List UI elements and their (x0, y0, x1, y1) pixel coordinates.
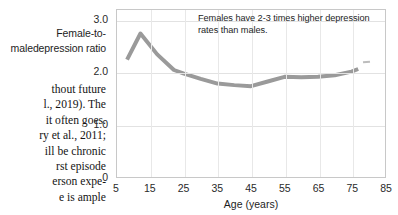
x-tick-label-75: 75 (339, 182, 365, 194)
body-text-line-0: thout future (0, 82, 106, 97)
body-text-line-3: ry et al., 2011; (0, 128, 106, 143)
gridline-y-2.0 (117, 73, 385, 74)
body-text-line-7: e is ample (0, 190, 106, 205)
gridline-x-25 (185, 10, 186, 177)
x-tick-label-35: 35 (204, 182, 230, 194)
x-tick-label-25: 25 (171, 182, 197, 194)
y-axis-caption: Female-to-maledepression ratio (0, 26, 106, 55)
y-tick-label-3.0: 3.0 (74, 13, 108, 25)
body-text-line-1: l., 2019). The (0, 97, 106, 112)
gridline-y-1.0 (117, 126, 385, 127)
annotation-line-1: rates than males. (198, 25, 388, 37)
x-axis-title: Age (years) (116, 198, 386, 210)
x-tick-label-85: 85 (373, 182, 398, 194)
x-tick-label-55: 55 (272, 182, 298, 194)
y-tick-label-1.0: 1.0 (74, 118, 108, 130)
annotation-line-0: Females have 2-3 times higher depression (198, 13, 388, 25)
x-tick-label-15: 15 (137, 182, 163, 194)
x-tick-label-65: 65 (306, 182, 332, 194)
y-tick-label-2.0: 2.0 (74, 65, 108, 77)
x-tick-label-45: 45 (238, 182, 264, 194)
gridline-x-15 (151, 10, 152, 177)
y-axis-caption-line-1: depression ratio (33, 42, 106, 54)
page-body-text: thout futurel., 2019). Theit often goes.… (0, 82, 106, 205)
chart-annotation: Females have 2-3 times higher depression… (198, 13, 388, 36)
body-text-line-4: ill be chronic (0, 144, 106, 159)
x-tick-label-5: 5 (103, 182, 129, 194)
